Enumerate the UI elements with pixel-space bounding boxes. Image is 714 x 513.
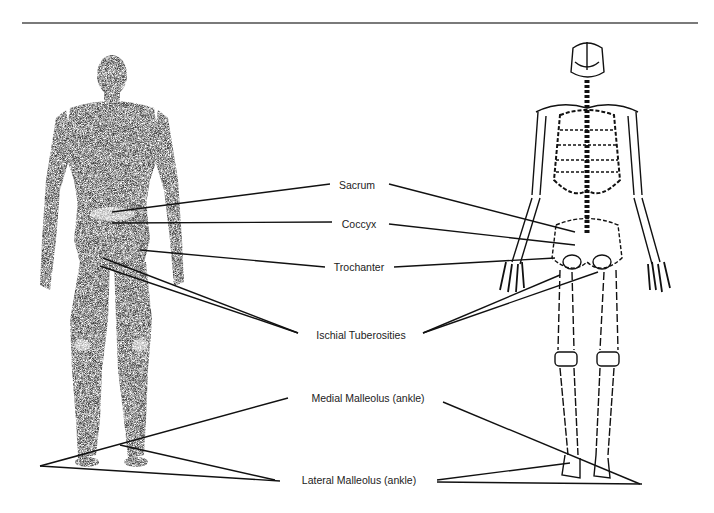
torso bbox=[64, 101, 160, 205]
sacrum-leader-right bbox=[389, 184, 575, 232]
lateral-leader-right-b bbox=[437, 482, 642, 484]
right-leg bbox=[114, 262, 152, 458]
label-coccyx: Coccyx bbox=[342, 218, 376, 230]
trochanter-leader-left bbox=[140, 250, 325, 267]
label-trochanter: Trochanter bbox=[334, 261, 384, 273]
trochanter-leader-right bbox=[394, 258, 555, 267]
label-sacrum: Sacrum bbox=[339, 179, 375, 191]
lateral-leader-right-a bbox=[437, 463, 570, 480]
left-leg bbox=[70, 262, 110, 458]
right-humerus bbox=[628, 112, 642, 195]
left-arm bbox=[40, 110, 72, 290]
left-hand bbox=[500, 262, 524, 292]
left-humerus bbox=[532, 112, 546, 195]
label-ischial-tuberosities: Ischial Tuberosities bbox=[316, 329, 405, 341]
anatomy-diagram bbox=[0, 0, 714, 513]
right-hand bbox=[648, 262, 670, 292]
label-medial-malleolus: Medial Malleolus (ankle) bbox=[311, 392, 424, 404]
left-femur bbox=[558, 270, 574, 350]
right-arm bbox=[152, 110, 184, 286]
coccyx-leader-right bbox=[389, 224, 575, 245]
ischial-leader-right-a bbox=[423, 275, 560, 333]
right-forearm bbox=[634, 198, 660, 264]
right-tibia bbox=[596, 368, 614, 455]
right-femur bbox=[600, 270, 618, 350]
ischial-leader-right-b bbox=[423, 272, 598, 333]
left-forearm bbox=[512, 198, 540, 264]
coccyx-leader-left bbox=[112, 222, 332, 223]
head bbox=[97, 55, 127, 95]
left-tibia bbox=[560, 368, 578, 455]
label-lateral-malleolus: Lateral Malleolus (ankle) bbox=[302, 474, 416, 486]
